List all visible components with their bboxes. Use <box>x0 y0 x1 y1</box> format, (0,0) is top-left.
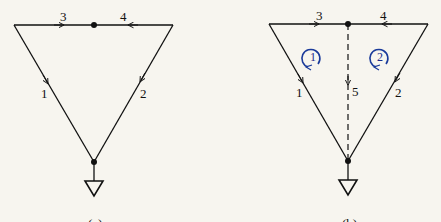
branch-2-label: 2 <box>140 86 147 101</box>
branch-2-arrow-icon <box>141 73 145 80</box>
branch-1-arrow-icon <box>43 75 47 82</box>
branch-1-label: 1 <box>41 86 48 101</box>
branch-1-line <box>14 25 94 162</box>
branch-4-label: 4 <box>380 8 387 23</box>
branch-2-label: 2 <box>395 85 402 100</box>
branch-5-label: 5 <box>352 84 359 99</box>
loop-2-label: 2 <box>377 50 383 64</box>
circuit-graph-diagram: 3 4 1 2 (a) 1 2 3 4 1 2 5 (b) <box>0 0 441 222</box>
figure-a: 3 4 1 2 (a) <box>14 9 173 222</box>
branch-1-arrow-icon <box>298 74 302 81</box>
caption-b: (b) <box>342 216 357 222</box>
branch-3-label: 3 <box>60 9 67 24</box>
branch-2-line <box>94 25 173 162</box>
ground-icon <box>85 181 103 196</box>
top-node <box>91 22 97 28</box>
ground-icon <box>339 180 357 195</box>
branch-1-label: 1 <box>296 85 303 100</box>
figure-b: 1 2 3 4 1 2 5 (b) <box>269 8 428 222</box>
branch-4-label: 4 <box>120 9 127 24</box>
branch-3-label: 3 <box>316 8 323 23</box>
caption-a: (a) <box>88 216 102 222</box>
loop-1-label: 1 <box>310 50 316 64</box>
